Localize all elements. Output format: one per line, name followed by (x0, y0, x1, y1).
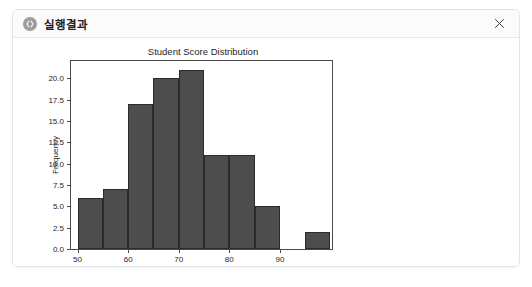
y-axis-tick (67, 185, 71, 186)
histogram-bar (255, 206, 280, 249)
y-axis-tick-label: 20.0 (48, 74, 64, 83)
x-axis-tick (179, 249, 180, 253)
histogram-bar (153, 78, 178, 249)
y-axis-tick (67, 206, 71, 207)
x-axis-tick (280, 249, 281, 253)
y-axis-tick (67, 78, 71, 79)
x-axis-tick (229, 249, 230, 253)
matplotlib-figure: Student Score Distribution Frequency 0.0… (13, 38, 519, 267)
histogram-bar (204, 155, 229, 249)
histogram-bar (78, 198, 103, 249)
close-icon[interactable] (489, 14, 509, 34)
histogram-bar (229, 155, 254, 249)
y-axis-tick (67, 249, 71, 250)
window-title: 실행결과 (44, 16, 88, 32)
x-axis-tick (128, 249, 129, 253)
x-axis-tick-label: 90 (275, 255, 284, 264)
y-axis-tick-label: 17.5 (48, 95, 64, 104)
histogram-bar (128, 104, 153, 249)
x-axis-tick-label: 50 (73, 255, 82, 264)
result-window: 실행결과 Student Score Distribution Frequenc… (12, 9, 520, 267)
y-axis-tick (67, 164, 71, 165)
x-axis-tick-label: 80 (225, 255, 234, 264)
window-titlebar: 실행결과 (13, 10, 519, 38)
y-axis-tick-label: 15.0 (48, 117, 64, 126)
plot-area (71, 61, 332, 249)
chart-axes: Frequency 0.02.55.07.510.012.515.017.520… (70, 60, 333, 250)
x-axis-tick-label: 60 (124, 255, 133, 264)
histogram-bar (103, 189, 128, 249)
y-axis-tick-label: 10.0 (48, 159, 64, 168)
histogram-bar (305, 232, 330, 249)
y-axis-tick-label: 2.5 (53, 223, 64, 232)
y-axis-tick (67, 228, 71, 229)
y-axis-tick (67, 142, 71, 143)
x-axis-tick (78, 249, 79, 253)
y-axis-tick (67, 100, 71, 101)
code-icon (23, 17, 37, 31)
window-body: Student Score Distribution Frequency 0.0… (13, 38, 519, 267)
histogram-bar (179, 70, 204, 249)
y-axis-tick (67, 121, 71, 122)
chart-title: Student Score Distribution (69, 46, 337, 57)
y-axis-tick-label: 5.0 (53, 202, 64, 211)
y-axis-tick-label: 12.5 (48, 138, 64, 147)
y-axis-tick-label: 0.0 (53, 245, 64, 254)
x-axis-tick-label: 70 (174, 255, 183, 264)
y-axis-tick-label: 7.5 (53, 181, 64, 190)
screenshot-root: 실행결과 Student Score Distribution Frequenc… (0, 0, 532, 287)
